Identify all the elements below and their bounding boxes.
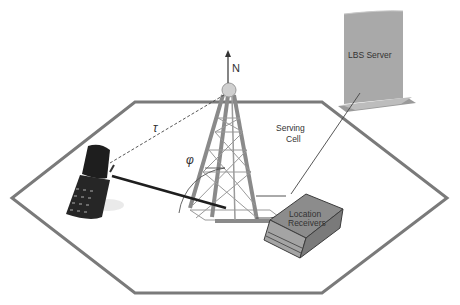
base-station-tower xyxy=(190,83,283,221)
antenna-ball xyxy=(222,83,236,97)
diagram-canvas: N φ τ Serving Cell LBS Server Location R… xyxy=(0,0,460,305)
serving-cell-label-line2: Cell xyxy=(286,134,301,144)
lbs-server-label: LBS Server xyxy=(348,50,392,60)
location-receivers-label-line2: Receivers xyxy=(288,218,326,228)
aoa-line xyxy=(112,176,226,208)
mobile-phone xyxy=(66,145,124,219)
server-receiver-link xyxy=(291,93,360,194)
phi-label: φ xyxy=(186,153,194,167)
tau-label: τ xyxy=(153,121,159,135)
north-label: N xyxy=(232,62,240,74)
north-arrow xyxy=(225,50,231,83)
lbs-server xyxy=(338,11,416,112)
serving-cell-label-line1: Serving xyxy=(276,123,305,133)
